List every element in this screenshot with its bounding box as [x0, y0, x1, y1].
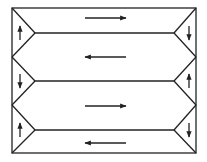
flow-diagram [0, 0, 207, 162]
right-diagonal [174, 33, 196, 57]
left-diagonal [12, 105, 35, 130]
left-diagonal [12, 81, 35, 105]
diagram-frame [12, 8, 196, 153]
left-diagonal [12, 8, 35, 33]
left-diagonal [12, 130, 35, 153]
left-diagonal [12, 33, 35, 57]
right-diagonal [174, 130, 196, 153]
right-diagonal [174, 8, 196, 33]
left-diagonal [12, 57, 35, 81]
right-diagonal [174, 81, 196, 105]
right-diagonal [174, 105, 196, 130]
right-diagonal [174, 57, 196, 81]
